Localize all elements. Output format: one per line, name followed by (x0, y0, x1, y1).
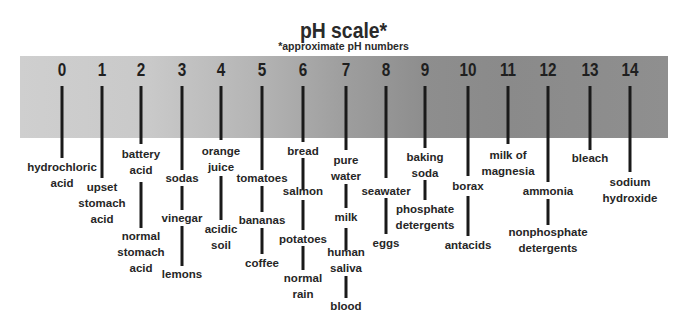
substance-normal-stomach-acid: normal stomach acid (117, 228, 164, 276)
connector-line (302, 246, 305, 270)
connector-line (261, 86, 264, 170)
ph-label-13: 13 (581, 60, 598, 81)
substance-human-saliva: human saliva (327, 244, 365, 276)
ph-label-1: 1 (98, 60, 107, 81)
connector-line (302, 200, 305, 230)
substance-baking-soda: baking soda (406, 149, 443, 181)
substance-lemons: lemons (162, 266, 202, 282)
connector-line (181, 186, 184, 210)
ph-label-6: 6 (299, 60, 308, 81)
substance-bananas: bananas (239, 212, 286, 228)
connector-line (345, 86, 348, 150)
substance-potatoes: potatoes (279, 231, 327, 247)
connector-line (589, 86, 592, 150)
connector-line (181, 86, 184, 170)
substance-tomatoes: tomatoes (236, 170, 287, 186)
connector-line (101, 86, 104, 178)
substance-orange-juice: orange juice (202, 143, 240, 175)
substance-seawater: seawater (361, 183, 410, 199)
substance-pure-water: pure water (331, 152, 361, 184)
ph-label-3: 3 (178, 60, 187, 81)
connector-line (302, 86, 305, 142)
substance-battery-acid: battery acid (122, 146, 160, 178)
connector-line (467, 196, 470, 236)
chart-subtitle: *approximate pH numbers (0, 40, 687, 52)
substance-milk: milk (334, 209, 357, 225)
ph-label-0: 0 (58, 60, 67, 81)
substance-salmon: salmon (283, 183, 323, 199)
connector-line (385, 198, 388, 234)
connector-line (629, 86, 632, 172)
connector-line (385, 86, 388, 178)
connector-line (220, 176, 223, 220)
ph-label-12: 12 (539, 60, 556, 81)
substance-nonphosphate-detergents: nonphosphate detergents (508, 224, 587, 256)
substance-sodas: sodas (165, 170, 198, 186)
substance-borax: borax (452, 178, 483, 194)
substance-eggs: eggs (373, 235, 400, 251)
connector-line (547, 199, 550, 225)
ph-label-10: 10 (459, 60, 476, 81)
connector-line (61, 86, 64, 158)
connector-line (424, 180, 427, 200)
connector-line (345, 276, 348, 298)
substance-sodium-hydroxide: sodium hydroxide (603, 174, 658, 206)
substance-normal-rain: normal rain (284, 270, 322, 302)
substance-vinegar: vinegar (162, 210, 203, 226)
ph-label-14: 14 (621, 60, 638, 81)
ph-label-2: 2 (137, 60, 146, 81)
ph-label-4: 4 (217, 60, 226, 81)
substance-acidic-soil: acidic soil (205, 221, 238, 253)
ph-label-11: 11 (500, 60, 516, 81)
connector-line (424, 86, 427, 148)
connector-line (220, 86, 223, 140)
connector-line (507, 86, 510, 144)
connector-line (547, 86, 550, 182)
ph-label-9: 9 (421, 60, 430, 81)
connector-line (467, 86, 470, 176)
substance-ammonia: ammonia (523, 183, 574, 199)
substance-phosphate-detergents: phosphate detergents (396, 201, 455, 233)
connector-line (181, 226, 184, 266)
ph-label-5: 5 (258, 60, 267, 81)
connector-line (261, 228, 264, 254)
ph-label-8: 8 (382, 60, 391, 81)
substance-antacids: antacids (445, 237, 492, 253)
connector-line (261, 186, 264, 212)
substance-milk-of-magnesia: milk of magnesia (481, 147, 534, 179)
ph-label-7: 7 (342, 60, 351, 81)
substance-bread: bread (287, 143, 318, 159)
substance-coffee: coffee (245, 255, 279, 271)
connector-line (345, 184, 348, 208)
substance-bleach: bleach (572, 150, 608, 166)
substance-blood: blood (330, 298, 361, 314)
connector-line (140, 86, 143, 144)
connector-line (140, 182, 143, 228)
substance-upset-stomach-acid: upset stomach acid (78, 179, 125, 227)
